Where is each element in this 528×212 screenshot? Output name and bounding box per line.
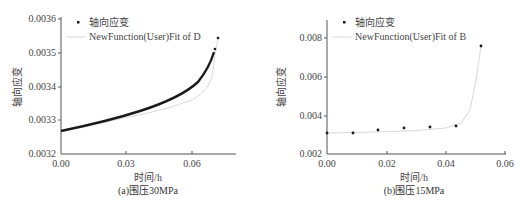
legend: 轴向应变 NewFunction(User)Fit of D <box>66 16 201 43</box>
y-tick-label: 0.004 <box>300 110 323 121</box>
legend-dot-icon <box>343 21 346 24</box>
y-tick-label: 0.008 <box>300 32 323 43</box>
y-tick-label: 0.0033 <box>29 114 57 125</box>
panel-caption: (b)围压15MPa <box>384 185 445 197</box>
x-axis-title: 时间/h <box>134 171 162 183</box>
legend: 轴向应变 NewFunction(User)Fit of B <box>332 16 466 43</box>
legend-label-fit: NewFunction(User)Fit of D <box>89 31 201 43</box>
legend-label-data: 轴向应变 <box>89 16 129 28</box>
panel-caption: (a)围压30MPa <box>118 185 179 197</box>
legend-label-data: 轴向应变 <box>355 16 395 28</box>
x-tick-label: 0.02 <box>378 158 396 169</box>
x-axis-title: 时间/h <box>400 171 428 183</box>
legend-label-fit: NewFunction(User)Fit of B <box>355 31 466 43</box>
x-tick-label: 0.04 <box>437 158 455 169</box>
panel-a: 0.0036 0.0035 0.0034 0.0033 0.0032 0.00 … <box>11 13 236 197</box>
y-tick-label: 0.0034 <box>29 81 57 92</box>
x-tick-label: 0.00 <box>52 158 70 169</box>
y-tick-label: 0.0036 <box>29 13 57 24</box>
data-points <box>326 45 483 135</box>
y-ticks: 0.008 0.006 0.004 0.002 <box>300 32 328 159</box>
x-tick-label: 0.06 <box>183 158 201 169</box>
y-ticks: 0.0036 0.0035 0.0034 0.0033 0.0032 <box>29 13 62 159</box>
data-points <box>61 37 219 131</box>
figure: 0.0036 0.0035 0.0034 0.0033 0.0032 0.00 … <box>0 0 528 212</box>
y-tick-label: 0.0035 <box>29 47 57 58</box>
fit-line <box>327 46 481 133</box>
panel-b: 0.008 0.006 0.004 0.002 0.00 0.02 0.04 0… <box>275 16 514 197</box>
y-axis-title: 轴向应变 <box>275 67 287 107</box>
x-tick-label: 0.06 <box>496 158 514 169</box>
y-tick-label: 0.006 <box>300 71 323 82</box>
y-axis-title: 轴向应变 <box>11 67 23 107</box>
x-tick-label: 0.00 <box>318 158 336 169</box>
legend-dot-icon <box>77 21 80 24</box>
x-tick-label: 0.03 <box>117 158 135 169</box>
